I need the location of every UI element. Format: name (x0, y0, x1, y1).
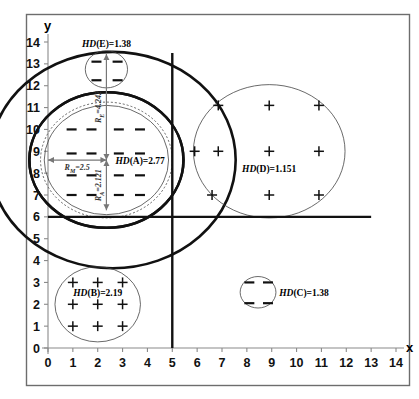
x-tick-label: 3 (119, 356, 126, 370)
radius-annotations-layer: RE=4.242RA=2.121RM=2.5 (48, 54, 109, 210)
y-tick-label: 0 (33, 342, 40, 356)
radius-bottom-head (103, 204, 109, 210)
y-tick-label: 1 (33, 320, 40, 334)
radius-top-label: RE=4.242 (94, 91, 105, 124)
x-tick-label: 12 (339, 356, 353, 370)
radius-bottom: RA=2.121 (94, 160, 109, 210)
axes-layer: 0123456789101112131401234567891011121314… (26, 18, 414, 370)
radius-bottom-label: RA=2.121 (94, 169, 105, 202)
x-tick-label: 4 (144, 356, 151, 370)
figure-root: 0123456789101112131401234567891011121314… (0, 0, 419, 399)
y-tick-label: 8 (33, 167, 40, 181)
cluster-labels-layer: HD(A)=2.77HD(B)=2.19HD(C)=1.38HD(D)=1.15… (72, 39, 329, 299)
radius-left-label: RM=2.5 (64, 163, 90, 174)
x-tick-label: 11 (315, 356, 328, 370)
x-tick-label: 5 (169, 356, 176, 370)
x-tick-label: 10 (290, 356, 304, 370)
y-tick-label: 2 (33, 298, 40, 312)
y-axis-name: y (44, 18, 52, 33)
y-tick-label: 6 (33, 210, 40, 224)
y-tick-label: 13 (26, 57, 40, 71)
point-b (118, 299, 128, 309)
point-b (93, 299, 103, 309)
radius-left-head (48, 157, 54, 163)
hd-label-c: HD(C)=1.38 (278, 288, 329, 299)
x-tick-label: 6 (194, 356, 201, 370)
point-b (68, 321, 78, 331)
x-tick-label: 7 (219, 356, 226, 370)
x-tick-label: 9 (268, 356, 275, 370)
point-d (314, 100, 324, 110)
hd-label-d: HD(D)=1.151 (241, 164, 296, 175)
radius-top: RE=4.242 (94, 54, 109, 160)
y-tick-label: 9 (33, 145, 40, 159)
x-tick-label: 8 (243, 356, 250, 370)
y-tick-label: 4 (33, 254, 40, 268)
point-b (93, 321, 103, 331)
hd-label-e: HD(E)=1.38 (81, 39, 131, 50)
hd-label-b: HD(B)=2.19 (72, 288, 122, 299)
x-tick-label: 1 (69, 356, 76, 370)
y-tick-label: 3 (33, 276, 40, 290)
y-tick-label: 14 (26, 36, 40, 50)
point-d (190, 146, 200, 156)
hd-label-a: HD(A)=2.77 (114, 156, 165, 167)
point-d (314, 146, 324, 156)
x-tick-label: 2 (94, 356, 101, 370)
radius-top-head (103, 54, 109, 60)
scatter-diagram: 0123456789101112131401234567891011121314… (0, 0, 419, 399)
x-axis-name: x (406, 340, 414, 355)
point-d (264, 190, 274, 200)
point-d (264, 146, 274, 156)
point-b (93, 277, 103, 287)
point-b (118, 277, 128, 287)
point-b (68, 277, 78, 287)
point-d (264, 100, 274, 110)
point-b (118, 321, 128, 331)
x-tick-label: 14 (389, 356, 403, 370)
point-b (68, 299, 78, 309)
point-d (213, 146, 223, 156)
x-tick-label: 0 (45, 356, 52, 370)
x-tick-label: 13 (364, 356, 378, 370)
y-tick-label: 11 (27, 101, 40, 115)
